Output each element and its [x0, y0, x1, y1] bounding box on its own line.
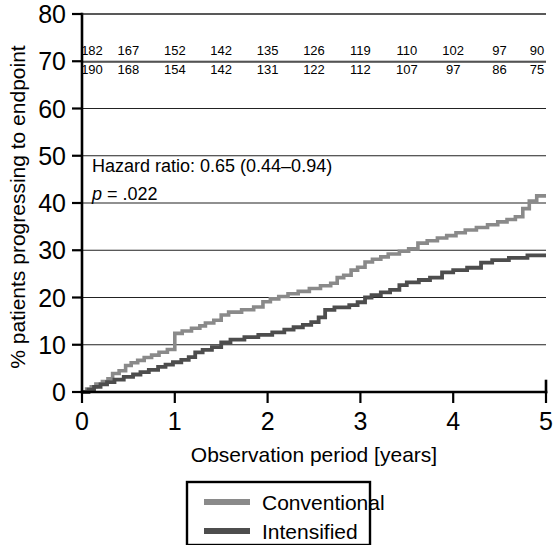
risk-count: 112	[350, 62, 371, 77]
risk-count: 190	[81, 62, 103, 77]
axes: 01020304050607080012345	[38, 0, 553, 435]
risk-count: 168	[118, 62, 140, 77]
x-tick-label: 2	[261, 407, 275, 435]
risk-count: 167	[118, 43, 140, 58]
x-tick-label: 3	[353, 407, 367, 435]
curve-intensified	[82, 255, 546, 392]
legend-label-conventional: Conventional	[262, 491, 385, 514]
x-tick-label: 5	[539, 407, 553, 435]
legend: ConventionalIntensified	[187, 482, 385, 545]
x-tick-label: 4	[446, 407, 460, 435]
y-tick-label: 20	[38, 284, 66, 312]
y-tick-label: 50	[38, 142, 66, 170]
kaplan-meier-figure: 1821671521421351261191101029790190168154…	[0, 0, 560, 545]
risk-count: 142	[210, 43, 232, 58]
risk-count: 152	[164, 43, 186, 58]
y-axis-title: % patients progressing to endpoint	[6, 45, 29, 369]
x-tick-label: 0	[75, 407, 89, 435]
risk-count: 107	[396, 62, 418, 77]
y-tick-label: 70	[38, 47, 66, 75]
risk-count: 97	[446, 62, 460, 77]
statistics-annotation: Hazard ratio: 0.65 (0.44–0.94)p = .022	[91, 156, 332, 204]
risk-count: 135	[257, 43, 279, 58]
risk-count: 97	[492, 43, 506, 58]
p-value-text: p = .022	[91, 184, 158, 204]
y-tick-label: 0	[52, 378, 66, 406]
risk-count: 182	[81, 43, 103, 58]
hazard-ratio-text: Hazard ratio: 0.65 (0.44–0.94)	[92, 156, 332, 176]
risk-count: 75	[530, 62, 544, 77]
risk-count: 154	[164, 62, 186, 77]
progression-chart: 1821671521421351261191101029790190168154…	[0, 0, 560, 545]
risk-count: 119	[350, 43, 371, 58]
risk-count: 90	[530, 43, 544, 58]
y-tick-label: 40	[38, 189, 66, 217]
p-symbol: p	[91, 184, 102, 204]
risk-count: 110	[396, 43, 417, 58]
risk-count: 102	[442, 43, 464, 58]
risk-count: 142	[210, 62, 232, 77]
x-tick-label: 1	[168, 407, 182, 435]
risk-count: 86	[492, 62, 506, 77]
risk-count: 122	[303, 62, 325, 77]
risk-count: 131	[257, 62, 279, 77]
curves	[82, 196, 546, 392]
curve-conventional	[82, 196, 546, 392]
y-tick-label: 10	[38, 331, 66, 359]
risk-table: 1821671521421351261191101029790190168154…	[81, 43, 546, 77]
x-axis-title: Observation period [years]	[191, 443, 437, 466]
legend-label-intensified: Intensified	[262, 520, 358, 543]
y-tick-label: 30	[38, 236, 66, 264]
risk-count: 126	[303, 43, 325, 58]
y-tick-label: 80	[38, 0, 66, 28]
p-value-number: = .022	[102, 184, 158, 204]
y-tick-label: 60	[38, 95, 66, 123]
